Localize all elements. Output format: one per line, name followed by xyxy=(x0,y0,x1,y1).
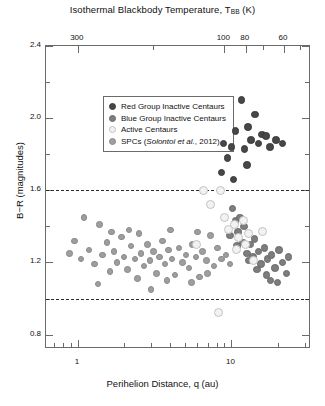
legend-marker-spc xyxy=(109,138,116,145)
data-point xyxy=(214,245,221,252)
x-tick xyxy=(185,343,186,347)
data-point xyxy=(230,176,238,184)
legend-marker-blue_group xyxy=(109,115,116,122)
data-point xyxy=(114,259,121,266)
data-point xyxy=(128,243,135,250)
legend-marker-red_group xyxy=(109,103,116,110)
top-axis-title-subscript: BB xyxy=(231,8,240,15)
data-point xyxy=(156,254,163,261)
data-point xyxy=(172,272,179,279)
data-point xyxy=(134,275,141,282)
data-point xyxy=(118,234,125,241)
data-point xyxy=(251,111,259,119)
data-point xyxy=(224,154,232,162)
data-point xyxy=(132,256,139,263)
x-tick xyxy=(78,340,79,347)
data-point xyxy=(211,263,218,270)
y-tick xyxy=(302,335,309,336)
data-point xyxy=(243,161,251,169)
x-tick xyxy=(217,343,218,347)
top-tick xyxy=(224,46,225,53)
x-axis-title: Perihelion Distance, q (au) xyxy=(0,378,325,389)
data-point xyxy=(204,270,211,277)
top-tick-label: 60 xyxy=(263,33,303,42)
data-point xyxy=(283,270,291,278)
data-point xyxy=(285,253,293,261)
top-tick xyxy=(300,46,301,50)
legend-label: Active Centaurs xyxy=(121,125,177,134)
data-point xyxy=(227,261,234,268)
data-point xyxy=(188,279,195,286)
data-point xyxy=(192,240,201,249)
data-point xyxy=(183,252,190,259)
data-point xyxy=(186,265,193,272)
x-tick xyxy=(170,343,171,347)
data-point xyxy=(144,241,151,248)
data-point xyxy=(253,266,261,274)
data-point xyxy=(199,248,206,255)
y-tick-label: 1.2 xyxy=(15,256,41,265)
y-tick xyxy=(46,335,53,336)
figure: Isothermal Blackbody Temperature, TBB (K… xyxy=(0,0,325,406)
data-point xyxy=(99,252,106,259)
x-tick xyxy=(278,343,279,347)
data-point xyxy=(203,257,210,264)
data-point xyxy=(238,96,246,104)
x-tick xyxy=(197,343,198,347)
data-point xyxy=(138,250,145,257)
legend-label: Blue Group Inactive Centaurs xyxy=(121,114,226,123)
data-point xyxy=(66,250,73,257)
data-point xyxy=(230,220,239,229)
data-point xyxy=(141,263,148,270)
y-tick xyxy=(46,46,53,47)
data-point xyxy=(194,229,201,236)
data-point xyxy=(214,308,223,317)
data-point xyxy=(207,232,214,239)
data-point xyxy=(165,247,172,254)
data-point xyxy=(258,227,267,236)
y-tick xyxy=(46,118,53,119)
data-point xyxy=(244,123,252,131)
y-tick xyxy=(302,46,309,47)
legend-label: Red Group Inactive Centaurs xyxy=(121,102,225,111)
x-tick xyxy=(124,343,125,347)
reference-line xyxy=(46,190,309,191)
data-point xyxy=(229,205,237,213)
y-tick xyxy=(46,154,50,155)
legend-item: Red Group Inactive Centaurs xyxy=(109,101,226,113)
data-point xyxy=(164,277,171,284)
data-point xyxy=(216,186,225,195)
top-tick-label: 300 xyxy=(57,33,97,42)
legend-item: Active Centaurs xyxy=(109,124,226,136)
top-tick xyxy=(246,46,247,53)
y-tick xyxy=(302,118,309,119)
plot-area: Red Group Inactive CentaursBlue Group In… xyxy=(45,45,310,348)
top-tick-label: 80 xyxy=(225,33,265,42)
x-tick xyxy=(224,343,225,347)
y-tick xyxy=(305,226,309,227)
data-point xyxy=(228,143,236,151)
x-tick xyxy=(63,343,64,347)
y-tick xyxy=(46,262,53,263)
data-point xyxy=(193,254,200,261)
top-tick xyxy=(78,46,79,53)
data-point xyxy=(167,227,174,234)
data-point xyxy=(232,127,240,135)
data-point xyxy=(147,257,154,264)
data-point xyxy=(196,274,203,281)
data-point xyxy=(108,229,115,236)
data-point xyxy=(81,214,88,221)
data-point xyxy=(95,281,102,288)
x-tick-label: 10 xyxy=(210,357,250,366)
legend-item: Blue Group Inactive Centaurs xyxy=(109,113,226,125)
data-point xyxy=(169,256,176,263)
y-tick xyxy=(302,262,309,263)
top-axis-title-main: Isothermal Blackbody Temperature, T xyxy=(70,4,231,15)
y-tick xyxy=(46,226,50,227)
data-point xyxy=(136,230,143,237)
data-point xyxy=(266,143,274,151)
data-point xyxy=(232,245,241,254)
data-point xyxy=(111,248,118,255)
y-tick xyxy=(46,82,50,83)
top-tick xyxy=(284,46,285,53)
